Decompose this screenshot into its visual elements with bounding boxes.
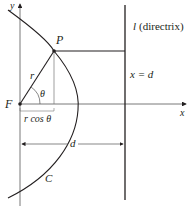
curve-label: C [45,172,53,184]
y-axis-label: y [9,0,15,11]
theta-label: θ [40,88,45,99]
point-p [52,49,56,53]
projection-label: r cos θ [24,113,51,124]
focus-point [18,102,22,106]
x-axis-label: x [179,107,185,118]
theta-arc [31,87,40,104]
radius-label: r [30,69,35,81]
projection-bracket [20,108,54,111]
radius-line [20,51,54,104]
point-label: P [55,33,64,47]
directrix-letter: l [133,20,136,32]
directrix-equation: x = d [129,68,154,80]
focus-label: F [4,97,13,111]
distance-label: d [70,137,76,149]
directrix-label: (directrix) [139,20,184,33]
conic-diagram: y x l (directrix) x = d C θ r F P r cos … [0,0,193,216]
